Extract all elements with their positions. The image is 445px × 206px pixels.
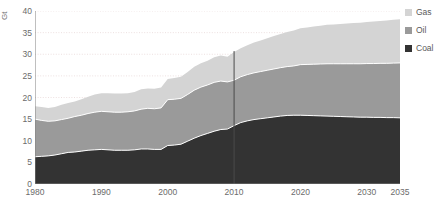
y-axis-tick-labels: 0510152025303540	[12, 0, 32, 206]
y-axis-title: Gt	[0, 6, 9, 20]
x-tick-label: 2020	[291, 188, 310, 197]
x-tick-label: 1990	[92, 188, 111, 197]
stacked-area-chart: Gt 0510152025303540 19801990200020102020…	[0, 0, 445, 206]
legend-swatch-icon	[405, 27, 412, 34]
x-tick-label: 1980	[26, 188, 45, 197]
y-tick-label: 5	[27, 158, 32, 167]
y-tick-label: 20	[23, 94, 32, 103]
x-tick-label: 2035	[391, 188, 410, 197]
legend-label: Gas	[416, 8, 432, 17]
x-tick-label: 2010	[225, 188, 244, 197]
y-tick-label: 15	[23, 115, 32, 124]
y-tick-label: 25	[23, 72, 32, 81]
plot-canvas	[35, 11, 400, 184]
y-tick-label: 10	[23, 137, 32, 146]
legend-item[interactable]: Oil	[405, 26, 445, 35]
legend-label: Oil	[416, 26, 426, 35]
legend-swatch-icon	[405, 9, 412, 16]
x-tick-label: 2000	[158, 188, 177, 197]
legend-item[interactable]: Gas	[405, 8, 445, 17]
y-tick-label: 35	[23, 29, 32, 38]
x-tick-label: 2030	[357, 188, 376, 197]
y-tick-label: 30	[23, 50, 32, 59]
chart-legend: GasOilCoal	[405, 8, 445, 62]
legend-swatch-icon	[405, 45, 412, 52]
legend-label: Coal	[416, 44, 433, 53]
plot-area	[35, 11, 400, 184]
legend-item[interactable]: Coal	[405, 44, 445, 53]
x-axis-tick-labels: 1980199020002010202020302035	[0, 188, 445, 204]
y-tick-label: 40	[23, 7, 32, 16]
